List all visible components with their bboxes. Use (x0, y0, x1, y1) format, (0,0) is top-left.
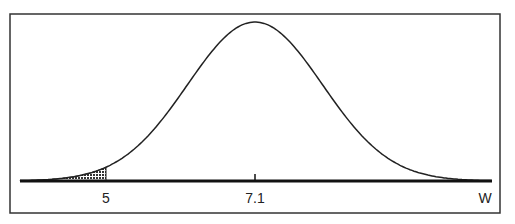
density-curve (20, 22, 492, 181)
mean-label: 7.1 (245, 190, 264, 206)
cutoff-label: 5 (102, 190, 110, 206)
normal-curve-figure: 5 7.1 W (0, 0, 515, 224)
figure-frame (10, 14, 500, 213)
axis-label-w: W (478, 190, 491, 206)
